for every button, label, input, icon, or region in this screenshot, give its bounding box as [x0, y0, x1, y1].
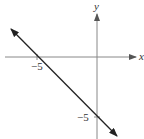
y-intercept-label: −5 [77, 111, 89, 123]
x-intercept-label: −5 [31, 60, 43, 72]
y-axis-label: y [93, 0, 99, 12]
x-axis-label: x [138, 50, 144, 62]
graph-line [11, 29, 117, 136]
coordinate-plane: y x −5 −5 [0, 0, 144, 139]
